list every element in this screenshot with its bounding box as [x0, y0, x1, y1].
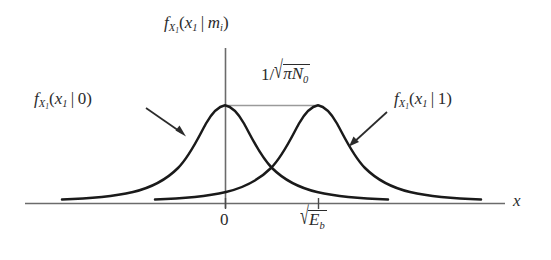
sqrt-pi-n0: √πN0 [274, 64, 310, 83]
right-label-arrow [349, 112, 387, 147]
left-label-arrow [146, 108, 186, 137]
gaussian-curve-one [155, 105, 481, 199]
y-axis-label: fX1(x1 | mi) [164, 14, 229, 31]
peak-value-label: 1/√πN0 [261, 64, 310, 83]
right-curve-label: fX1(x1 | 1) [394, 90, 452, 107]
x-axis-label: x [513, 192, 521, 209]
left-curve-label: fX1(x1 | 0) [34, 90, 92, 107]
x-tick-label-sqrt-eb: √Eb [300, 210, 327, 229]
figure-canvas [0, 0, 551, 260]
sqrt-eb: √Eb [300, 210, 327, 229]
gaussian-conditional-density-figure: fX1(x1 | mi) 1/√πN0 fX1(x1 | 0) fX1(x1 |… [0, 0, 551, 260]
x-tick-label-zero: 0 [220, 211, 229, 228]
